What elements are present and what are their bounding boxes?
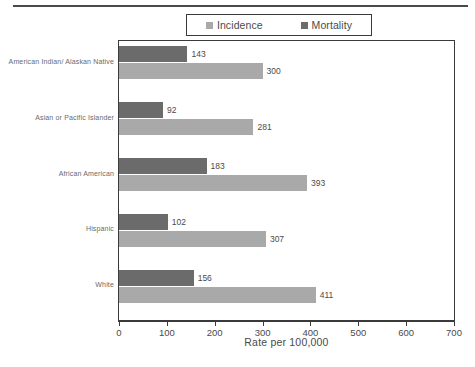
x-axis-tick	[263, 322, 264, 326]
category-label: African American	[59, 170, 114, 177]
x-axis-tick	[406, 322, 407, 326]
bar-incidence[interactable]	[119, 119, 253, 135]
bar-value-label: 300	[267, 67, 281, 76]
bar-value-label: 393	[311, 179, 325, 188]
bar-mortality[interactable]	[119, 270, 194, 286]
x-axis: 0100200300400500600700	[118, 321, 455, 323]
table-row: 156	[119, 270, 454, 286]
square-swatch-icon	[301, 22, 308, 29]
bar-group: 92281	[119, 102, 454, 135]
bar-mortality[interactable]	[119, 46, 187, 62]
category-axis-labels: American Indian/ Alaskan NativeAsian or …	[0, 40, 114, 321]
x-axis-tick	[358, 322, 359, 326]
table-row: 411	[119, 287, 454, 303]
x-axis-tick	[215, 322, 216, 326]
bar-value-label: 307	[270, 235, 284, 244]
bar-mortality[interactable]	[119, 158, 207, 174]
chart-legend: Incidence Mortality	[186, 14, 372, 36]
bar-group: 156411	[119, 270, 454, 303]
category-label: American Indian/ Alaskan Native	[9, 58, 114, 65]
bar-value-label: 102	[172, 218, 186, 227]
bar-value-label: 143	[191, 50, 205, 59]
category-label: Hispanic	[86, 225, 114, 232]
table-row: 393	[119, 175, 454, 191]
legend-label-incidence: Incidence	[217, 19, 263, 31]
table-row: 300	[119, 63, 454, 79]
x-axis-tick	[119, 322, 120, 326]
x-axis-title: Rate per 100,000	[118, 336, 455, 348]
table-row: 92	[119, 102, 454, 118]
bar-incidence[interactable]	[119, 287, 316, 303]
bar-value-label: 156	[198, 273, 212, 282]
table-row: 143	[119, 46, 454, 62]
x-axis-tick	[454, 322, 455, 326]
x-axis-tick	[167, 322, 168, 326]
chart-page: Incidence Mortality American Indian/ Ala…	[0, 0, 475, 367]
table-row: 281	[119, 119, 454, 135]
table-row: 307	[119, 231, 454, 247]
table-row: 183	[119, 158, 454, 174]
bar-value-label: 183	[211, 162, 225, 171]
bar-incidence[interactable]	[119, 175, 307, 191]
x-axis-tick	[310, 322, 311, 326]
legend-item-incidence: Incidence	[206, 19, 263, 31]
bar-group: 143300	[119, 46, 454, 79]
category-label: Asian or Pacific Islander	[35, 114, 114, 121]
bar-incidence[interactable]	[119, 231, 266, 247]
bar-group: 183393	[119, 158, 454, 191]
bar-value-label: 92	[167, 106, 176, 115]
category-label: White	[95, 281, 114, 288]
table-row: 102	[119, 214, 454, 230]
square-swatch-icon	[206, 22, 213, 29]
legend-label-mortality: Mortality	[312, 19, 353, 31]
bar-incidence[interactable]	[119, 63, 263, 79]
bar-mortality[interactable]	[119, 102, 163, 118]
legend-item-mortality: Mortality	[301, 19, 353, 31]
bar-mortality[interactable]	[119, 214, 168, 230]
header-divider	[13, 5, 468, 7]
bar-group: 102307	[119, 214, 454, 247]
bar-value-label: 281	[257, 123, 271, 132]
plot-area: 14330092281183393102307156411	[119, 41, 454, 320]
bar-value-label: 411	[320, 290, 334, 299]
